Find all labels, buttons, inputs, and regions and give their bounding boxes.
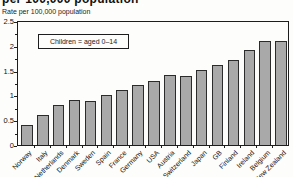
x-tick — [256, 146, 257, 148]
y-minor-tick — [15, 134, 17, 135]
x-tick — [82, 146, 83, 148]
y-minor-tick — [15, 59, 17, 60]
legend-label: Children = aged 0–14 — [50, 38, 117, 45]
y-tick-label-0.5: 0.5 — [1, 117, 14, 125]
y-minor-tick — [15, 34, 17, 35]
y-tick-label-1: 1 — [1, 92, 14, 100]
y-minor-tick — [15, 84, 17, 85]
clipped-page-title: per 100,000 population — [2, 0, 139, 6]
y-major-tick — [14, 121, 17, 122]
bar-austria — [164, 75, 176, 145]
bar-spain — [101, 95, 113, 145]
x-tick — [177, 146, 178, 148]
x-label-text-gb: GB — [211, 149, 223, 161]
bar-japan — [196, 70, 208, 145]
bar-usa — [148, 81, 160, 145]
legend-box: Children = aged 0–14 — [38, 34, 129, 49]
y-major-tick — [14, 96, 17, 97]
x-tick — [113, 146, 114, 148]
chart-page: per 100,000 population Rate per 100,000 … — [0, 0, 293, 177]
y-minor-tick — [15, 109, 17, 110]
y-major-tick — [14, 47, 17, 48]
y-tick-label-1.5: 1.5 — [1, 68, 14, 76]
x-tick — [209, 146, 210, 148]
x-tick — [97, 146, 98, 148]
x-tick — [224, 146, 225, 148]
bar-sweden — [85, 101, 97, 145]
x-tick — [145, 146, 146, 148]
x-tick — [66, 146, 67, 148]
bar-belgium — [259, 41, 271, 145]
x-label-text-norway: Norway — [11, 149, 33, 171]
bar-germany — [132, 85, 144, 145]
y-axis-unit-label: Rate per 100,000 population — [2, 8, 90, 15]
plot-area: Children = aged 0–14 — [17, 21, 289, 146]
bar-switzerland — [180, 76, 192, 145]
x-tick — [193, 146, 194, 148]
y-tick-label-0: 0 — [1, 142, 14, 150]
x-tick — [129, 146, 130, 148]
bar-norway — [21, 125, 33, 145]
bar-gb — [212, 65, 224, 145]
y-tick-label-2.5: 2.5 — [1, 18, 14, 26]
bar-finland — [228, 60, 240, 145]
y-major-tick — [14, 146, 17, 147]
bar-france — [116, 90, 128, 145]
bar-new-zealand — [275, 41, 287, 145]
x-tick — [240, 146, 241, 148]
x-tick — [34, 146, 35, 148]
y-major-tick — [14, 72, 17, 73]
x-tick — [272, 146, 273, 148]
x-tick — [161, 146, 162, 148]
bar-italy — [37, 115, 49, 145]
bar-netherlands — [53, 105, 65, 145]
x-tick — [50, 146, 51, 148]
y-tick-label-2: 2 — [1, 43, 14, 51]
bar-denmark — [69, 100, 81, 145]
bar-ireland — [244, 50, 256, 145]
x-label-text-japan: Japan — [189, 149, 207, 167]
y-major-tick — [14, 22, 17, 23]
